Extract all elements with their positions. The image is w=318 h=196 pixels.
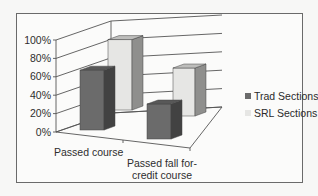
legend-item-trad: Trad Sections <box>245 87 318 104</box>
category-label: Passed course <box>54 146 124 158</box>
y-axis-ticks: 0% 20% 40% 60% 80% 100% <box>24 34 51 138</box>
x-axis-category-labels: Passed course Passed fall for- credit co… <box>54 146 198 181</box>
legend-swatch-icon <box>245 110 251 116</box>
legend: Trad Sections SRL Sections <box>245 87 318 121</box>
y-tick-label: 80% <box>30 52 51 64</box>
y-tick-label: 40% <box>30 89 51 101</box>
legend-item-srl: SRL Sections <box>245 104 318 121</box>
bars <box>80 36 206 139</box>
y-tick-label: 60% <box>30 70 51 82</box>
legend-label: SRL Sections <box>254 107 317 119</box>
legend-swatch-icon <box>245 93 251 99</box>
bar <box>147 100 182 139</box>
y-tick-label: 20% <box>30 107 51 119</box>
category-label: Passed fall for- <box>127 157 198 169</box>
legend-label: Trad Sections <box>254 90 318 102</box>
category-label: credit course <box>132 169 192 181</box>
y-tick-label: 0% <box>36 126 51 138</box>
y-tick-label: 100% <box>24 34 51 46</box>
bar <box>80 66 115 130</box>
